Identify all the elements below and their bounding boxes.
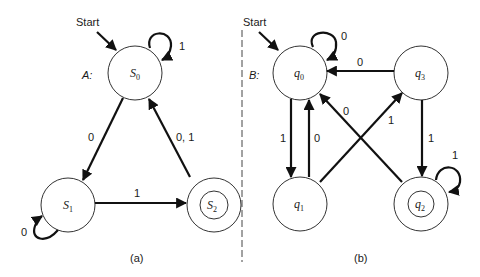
transition-label-q3-q0: 0	[357, 56, 363, 68]
transition-label-q2-q0: 0	[343, 105, 349, 117]
transition-label-s2-s0: 0, 1	[176, 131, 194, 143]
transition-label-q0-q1: 1	[280, 132, 286, 144]
start-arrow-b	[259, 32, 278, 50]
transition-label-q0-q0: 0	[341, 30, 347, 42]
panel-b: Start q0 B: 0 q3 q1 q2 1 0 1 0 1	[243, 16, 460, 264]
start-label-a: Start	[76, 16, 99, 28]
transition-label-q1-q3: 1	[388, 114, 394, 126]
automaton-label-b: B:	[249, 69, 259, 81]
transition-label-q1-q0: 0	[314, 132, 320, 144]
finite-state-machines-figure: Start S0 A: 1 S1 0 S2 0 1 0, 1 (a) Start	[0, 0, 480, 277]
transition-label-s1-s1: 0	[21, 226, 27, 238]
caption-a: (a)	[130, 252, 143, 264]
start-label-b: Start	[243, 16, 266, 28]
panel-a: Start S0 A: 1 S1 0 S2 0 1 0, 1 (a)	[21, 16, 241, 264]
transition-label-s0-s0: 1	[179, 40, 185, 52]
caption-b: (b)	[354, 252, 367, 264]
transition-label-s0-s1: 0	[88, 131, 94, 143]
automaton-label-a: A:	[81, 69, 92, 81]
transition-label-q2-q2: 1	[452, 149, 458, 161]
transition-label-q3-q2: 1	[428, 132, 434, 144]
transition-label-s1-s2: 1	[134, 187, 140, 199]
start-arrow-a	[97, 32, 116, 50]
